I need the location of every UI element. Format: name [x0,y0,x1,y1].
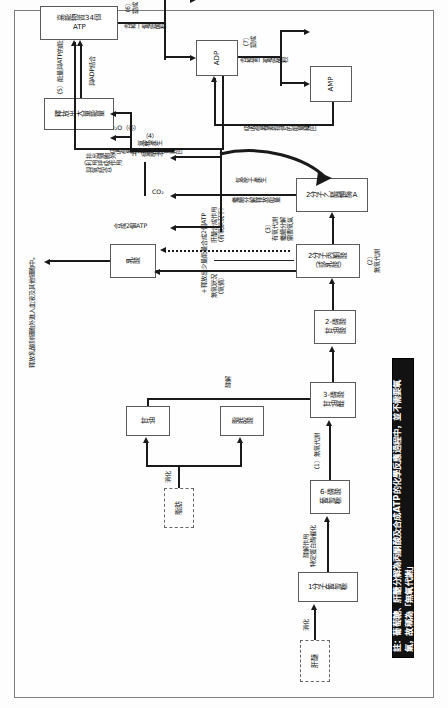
arrowhead-pga2-to-pyruvate [329,278,335,284]
edge-label-aerobic-3: （3） 有氧代謝 繼續分解 需要氧氣 [264,212,294,246]
node-glucose-label: 1分子葡萄糖 [308,583,347,592]
edge-label-lactate-out: 無氧狀況 （氧債） [210,272,225,300]
arrowhead-pyruvate-to-acetyl [329,212,335,218]
edge-pyruvate-to-acetyl [332,218,334,244]
screenshot-page: 肝醣 消化 1分子葡萄糖 酵解作用 特定蛋白酶催化 6-磷酸 葡萄糖 （1）無氧… [0,0,448,708]
label-amp-back: 吸收營養素提供的能量轉回 [244,124,316,142]
node-liver-glycogen: 肝醣 [300,640,330,682]
edge-label-lactate-back: 肝醣合成作用 （有氧狀況下） [210,204,225,246]
edge-label-step6b: 去掉一個磷酸根 [124,22,166,46]
edge-adp-recycle-top [74,42,76,150]
node-pga2: 2-磷酸 甘油酸 [314,310,356,344]
label-release-energy: 釋放出能量供身體所需 [196,0,256,8]
edge-pga2-to-pyruvate [332,284,334,310]
label-co2: CO₂ [152,188,164,204]
edge-label-acetyl-cont: 繼續分解釋放能量 [232,196,280,212]
arrowhead-adp-to-atp [71,40,77,46]
node-fatty-acid-label: 脂肪酸 [232,417,253,426]
node-liver-glycogen-label: 肝醣 [311,654,320,668]
edge-oxidation-to-water [114,136,132,138]
edge-label-enzyme: 酵解作用 特定蛋白酶催化 [302,518,317,574]
edge-oxidation-to-energy [114,112,132,114]
node-fat: 脂肪 [164,488,194,528]
node-lactate: 乳酸 [110,244,156,278]
node-amp-label: AMP [327,76,336,91]
node-amp: AMP [310,66,352,102]
edge-label-step5: （5）能量與ATP的能量 [56,44,63,98]
edge-label-step8: （8） 吸收營養素提供的能量轉回 [110,140,182,170]
node-glucose: 1分子葡萄糖 [298,572,358,602]
edge-to-atp2-branch [174,226,220,228]
edge-glycogen-to-glucose [314,610,316,640]
arrowhead-to-glycerol [143,437,149,443]
edge-adp-to-amp-drop [280,82,304,84]
edge-adp-recycle-bottom [222,76,224,150]
node-g6p: 6-磷酸 葡萄糖 [310,480,350,514]
arrowhead-energy-to-atp34 [77,40,83,46]
edge-atp-to-adp-drop [164,56,190,58]
edge-lactate-back-dotted [164,250,290,252]
node-fatty-acid: 脂肪酸 [220,406,264,436]
label-lactate-blood: 釋放乳酸到細胞外進入血液及其他細胞中。 [28,264,35,368]
edge-g3p-to-pga2 [332,352,334,382]
node-fat-label: 脂肪 [175,501,184,515]
node-adp: ADP [196,40,238,76]
edge-label-glycerol-enzyme: 酵解 [224,368,231,396]
label-atp-made: 合成2個ATP [114,222,147,238]
edge-glucose-to-g6p [327,522,329,572]
arrowhead-g3p-to-pga2 [329,346,335,352]
arrowhead-amp-to-adp [211,76,217,82]
edge-adp-energy-drop [280,30,304,32]
node-pyruvate: 2分子丙酮酸 （或乳酸） [296,244,360,278]
edge-fat-bracket [146,465,242,467]
node-adp-label: ADP [213,51,222,65]
edge-fat-stem [178,466,180,488]
node-g3p-label: 3-磷酸 甘油醛 [323,391,344,409]
curve-h-recycle [214,142,338,198]
note-text: 註：葡萄糖、肝醣分解為丙酮酸及合成ATP的化學反應過程中，並不需要氧氣，故稱為「… [391,364,415,652]
arrowhead-adp-energy [304,29,310,35]
edge-pyruvate-to-lactate [156,270,296,272]
edge-label-step7b: 去掉第二個磷酸根 [240,56,288,78]
edge-energy-to-atp34 [80,46,82,98]
arrowhead-pyruvate-to-lactate [154,269,160,275]
edge-label-step1: （1）無氧代謝 [313,426,320,480]
edge-to-fatty-acid [240,443,242,467]
arrowhead-glucose-to-g6p [324,516,330,522]
node-glycerol-label: 甘油 [141,417,155,426]
arrowhead-to-fatty-acid [237,437,243,443]
node-g3p: 3-磷酸 甘油醛 [310,382,356,418]
note-box: 註：葡萄糖、肝醣分解為丙酮酸及合成ATP的化學反應過程中，並不需要氧氣，故稱為「… [392,358,414,658]
node-lactate-label: 乳酸 [126,257,140,266]
edge-g6p-to-g3p [329,426,331,480]
node-pyruvate-label: 2分子丙酮酸 （或乳酸） [308,252,347,270]
edge-to-glycerol [146,443,148,467]
arrowhead-to-co2 [170,193,176,199]
edge-amp-recycle-top [214,78,216,126]
arrowhead-glycogen-to-glucose [311,604,317,610]
edge-label-anaerobic-2: （2） 無氧代謝 [366,238,381,284]
node-big-energy: 釋放出大量能量 [44,98,114,130]
node-pga2-label: 2-磷酸 甘油酸 [325,318,346,336]
edge-glycerol-to-g3p-v [147,398,319,400]
edge-label-glycogen-split: 消化 [302,612,309,638]
label-atp2-release: ＋釋放出少量能量合成2個ATP [200,224,207,294]
edge-lactate-to-blood [48,260,110,262]
node-atp34-label: 高能物質34個 ATP [57,14,101,32]
arrowhead-lactate-to-blood [44,259,50,265]
arrowhead-lactate-back [160,247,166,253]
arrowhead-to-big-energy [110,111,116,117]
arrowhead-g6p-to-g3p [326,420,332,426]
edge-label-step7: （7） 變成 [242,30,257,54]
node-g6p-label: 6-磷酸 葡萄糖 [320,488,341,506]
node-atp34: 高能物質34個 ATP [40,6,118,40]
arrowhead-to-atp2-branch [170,225,176,231]
node-glycerol: 甘油 [126,406,170,436]
edge-label-step6: （6） 變成 [124,0,139,20]
node-big-energy-label: 釋放出大量能量 [55,110,104,119]
edge-label-step5b: 與ADP結合 [88,48,95,94]
edge-amp-recycle-h [332,102,334,126]
edge-label-fat-digest: 消化 [164,464,171,490]
flowchart-canvas: 肝醣 消化 1分子葡萄糖 酵解作用 特定蛋白酶催化 6-磷酸 葡萄糖 （1）無氧… [14,10,434,698]
edge-pyruvate-atp2-tick [214,260,294,261]
